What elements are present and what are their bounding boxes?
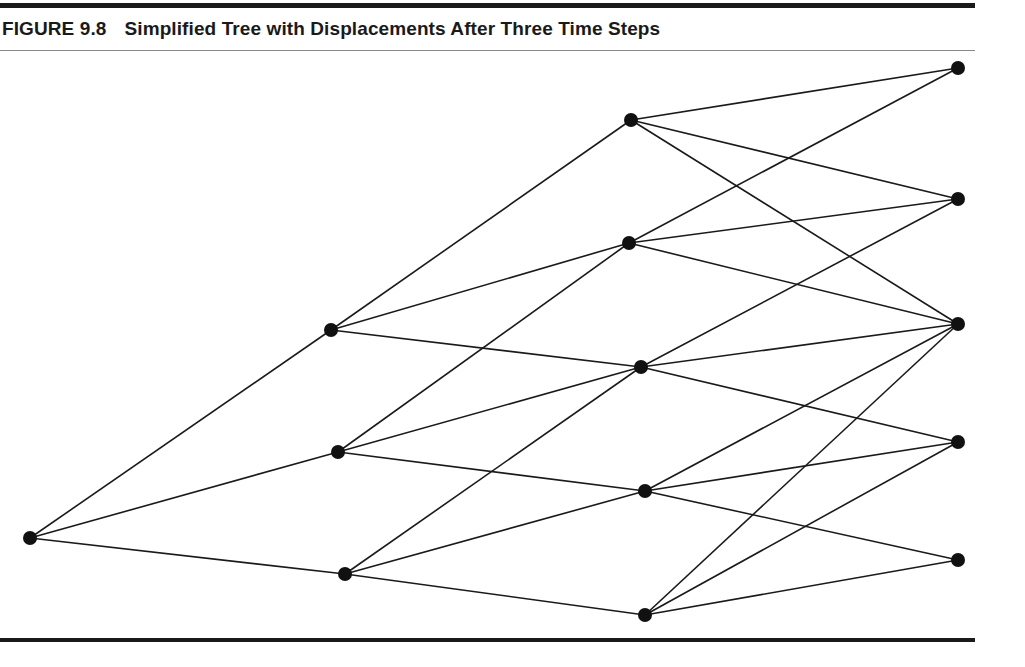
tree-node: [951, 192, 965, 206]
tree-edge: [631, 120, 958, 324]
tree-edge: [629, 199, 958, 243]
tree-edge: [30, 452, 338, 538]
tree-node: [638, 608, 652, 622]
tree-edge: [645, 560, 958, 615]
tree-edge: [30, 538, 345, 574]
tree-edge: [645, 442, 958, 615]
tree-node: [951, 61, 965, 75]
tree-edge: [645, 491, 958, 560]
tree-node: [951, 553, 965, 567]
tree-node: [951, 435, 965, 449]
tree-node: [624, 113, 638, 127]
tree-node: [331, 445, 345, 459]
tree-node: [338, 567, 352, 581]
tree-edges: [30, 68, 958, 615]
tree-node: [638, 484, 652, 498]
tree-edge: [338, 367, 641, 452]
tree-node: [951, 317, 965, 331]
tree-node: [324, 323, 338, 337]
tree-edge: [645, 324, 958, 615]
bottom-rule: [0, 638, 975, 642]
tree-edge: [30, 330, 331, 538]
tree-edge: [631, 120, 958, 199]
tree-edge: [345, 574, 645, 615]
tree-edge: [331, 330, 641, 367]
tree-edge: [338, 243, 629, 452]
tree-node: [622, 236, 636, 250]
tree-edge: [331, 120, 631, 330]
tree-node: [23, 531, 37, 545]
tree-node: [634, 360, 648, 374]
tree-diagram: [0, 0, 1025, 667]
tree-edge: [641, 324, 958, 367]
tree-edge: [345, 367, 641, 574]
tree-edge: [331, 243, 629, 330]
tree-edge: [629, 243, 958, 324]
tree-edge: [641, 367, 958, 442]
tree-edge: [345, 491, 645, 574]
